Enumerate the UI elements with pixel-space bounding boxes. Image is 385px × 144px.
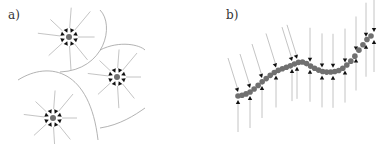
flow-ray-line <box>75 44 88 60</box>
arrowhead-icon <box>108 72 113 76</box>
chain-dot <box>352 53 358 59</box>
arrowhead-icon <box>354 58 358 62</box>
arrowhead-icon <box>48 122 52 127</box>
region-boundary-line <box>18 71 98 140</box>
flow-ray-line <box>36 102 47 112</box>
sink-node <box>24 90 77 144</box>
arrowhead-icon <box>112 81 116 86</box>
arrowhead-icon <box>57 119 62 123</box>
arrowhead-icon <box>372 28 376 32</box>
arrowhead-icon <box>320 63 324 67</box>
sink-dot <box>50 115 56 121</box>
arrowhead-icon <box>236 100 240 104</box>
flow-ray-line <box>98 83 110 94</box>
flow-ray-line <box>38 33 60 36</box>
flow-ray-line <box>54 127 55 144</box>
flow-ray-line <box>75 11 91 30</box>
arrowhead-icon <box>70 28 74 33</box>
panel-a-sink-diagram <box>18 8 145 144</box>
flow-ray-line <box>59 94 73 111</box>
arrowhead-icon <box>259 74 263 78</box>
flow-ray-line <box>70 46 71 70</box>
force-ray-line <box>252 44 262 76</box>
arrowhead-icon <box>73 38 78 42</box>
arrowhead-icon <box>308 70 312 74</box>
arrowhead-icon <box>64 41 68 46</box>
arrowhead-icon <box>70 41 74 46</box>
sink-dot <box>66 34 72 40</box>
arrowhead-icon <box>118 68 122 73</box>
force-ray-line <box>282 27 292 59</box>
arrowhead-icon <box>320 75 324 79</box>
flow-ray-line <box>88 73 108 75</box>
arrowhead-icon <box>295 67 299 71</box>
region-boundary-line <box>100 44 145 50</box>
flow-ray-line <box>54 90 55 109</box>
arrowhead-icon <box>60 32 65 36</box>
flow-ray-line <box>24 114 44 116</box>
arrowhead-icon <box>290 69 294 73</box>
arrowhead-icon <box>343 59 347 63</box>
sink-dot <box>114 74 120 80</box>
flow-ray-line <box>100 61 111 71</box>
arrowhead-icon <box>54 109 58 114</box>
arrowhead-icon <box>57 113 62 117</box>
flow-ray-line <box>118 86 119 108</box>
arrowhead-icon <box>118 81 122 86</box>
flow-ray-line <box>49 43 63 55</box>
panel-b-label: b) <box>226 8 238 22</box>
region-boundary-line <box>100 108 145 128</box>
chain-dot <box>344 62 350 68</box>
arrowhead-icon <box>247 84 251 88</box>
panel-a-label: a) <box>8 8 20 22</box>
chain-dot <box>348 58 354 64</box>
arrowhead-icon <box>294 54 298 58</box>
arrowhead-icon <box>44 113 49 117</box>
chain-dot <box>360 42 366 48</box>
force-ray-line <box>228 58 238 90</box>
arrowhead-icon <box>60 38 65 42</box>
arrowhead-icon <box>112 68 116 73</box>
arrowhead-icon <box>108 78 113 82</box>
flow-ray-line <box>123 53 137 70</box>
chain-dot <box>356 47 362 53</box>
arrowhead-icon <box>235 88 239 92</box>
figure-canvas <box>0 0 385 144</box>
flow-ray-line <box>118 49 119 68</box>
chain-dot <box>368 33 374 39</box>
arrowhead-icon <box>64 28 68 33</box>
arrowhead-icon <box>121 72 126 76</box>
arrowhead-icon <box>308 58 312 62</box>
arrowhead-icon <box>331 64 335 68</box>
flow-ray-line <box>123 84 135 98</box>
force-ray-line <box>240 54 250 86</box>
panel-b-chain-diagram <box>228 0 376 132</box>
arrowhead-icon <box>331 76 335 80</box>
arrowhead-icon <box>54 122 58 127</box>
arrowhead-icon <box>248 96 252 100</box>
arrowhead-icon <box>372 40 376 44</box>
flow-ray-line <box>50 19 62 30</box>
arrowhead-icon <box>273 63 277 67</box>
force-ray-line <box>287 25 297 57</box>
arrowhead-icon <box>343 71 347 75</box>
force-ray-line <box>266 33 276 65</box>
arrowhead-icon <box>73 32 78 36</box>
arrowhead-icon <box>44 119 49 123</box>
flow-ray-line <box>59 125 71 139</box>
sink-node <box>88 49 141 108</box>
arrowhead-icon <box>289 57 293 61</box>
flow-ray-line <box>70 8 72 28</box>
flow-ray-line <box>34 124 46 135</box>
arrowhead-icon <box>364 33 368 37</box>
sink-node <box>38 8 95 71</box>
arrowhead-icon <box>48 109 52 114</box>
arrowhead-icon <box>274 75 278 79</box>
arrowhead-icon <box>121 78 126 82</box>
